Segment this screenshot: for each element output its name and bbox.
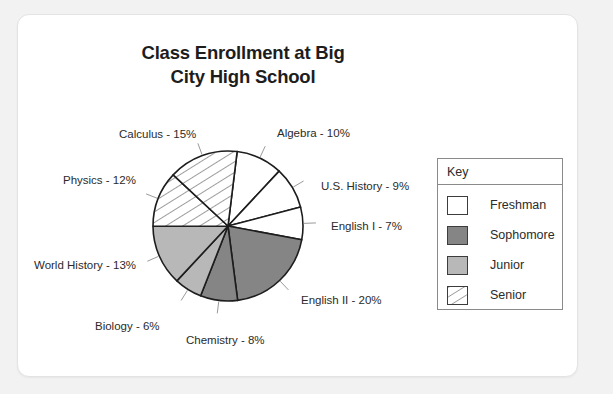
legend-item-label: Sophomore — [490, 228, 555, 242]
pie-slice[interactable] — [228, 226, 302, 300]
legend-item-label: Freshman — [490, 198, 546, 212]
slice-label: Algebra - 10% — [277, 127, 350, 140]
legend-swatch-icon — [447, 196, 468, 215]
legend-items: FreshmanSophomoreJuniorSenior — [438, 185, 562, 310]
leader-line — [260, 146, 265, 157]
pie-slice-group — [153, 151, 303, 301]
legend-swatch-icon — [447, 256, 468, 275]
legend-box: Key FreshmanSophomoreJuniorSenior — [437, 158, 563, 310]
slice-label: World History - 13% — [34, 259, 136, 272]
slice-label: Calculus - 15% — [119, 128, 196, 141]
leader-line — [198, 143, 202, 154]
legend-item-label: Junior — [490, 258, 524, 272]
slice-label: U.S. History - 9% — [321, 180, 409, 193]
legend-item[interactable]: Junior — [438, 250, 562, 280]
legend-item[interactable]: Senior — [438, 280, 562, 310]
legend-item[interactable]: Sophomore — [438, 220, 562, 250]
legend-title: Key — [438, 159, 562, 185]
leader-line — [146, 194, 157, 198]
slice-label: Chemistry - 8% — [186, 334, 265, 347]
legend-swatch-icon — [447, 286, 468, 305]
leader-line — [181, 290, 187, 300]
leader-line — [147, 256, 158, 261]
slice-label: English I - 7% — [331, 220, 402, 233]
leader-line — [280, 281, 288, 290]
legend-title-text: Key — [447, 165, 469, 179]
leader-line — [293, 181, 303, 187]
slice-label: Physics - 12% — [63, 174, 136, 187]
legend-item-label: Senior — [490, 288, 526, 302]
slice-label: English II - 20% — [301, 294, 382, 307]
leader-line — [217, 301, 218, 313]
legend-item[interactable]: Freshman — [438, 190, 562, 220]
slice-label: Biology - 6% — [95, 320, 160, 333]
legend-swatch-icon — [447, 226, 468, 245]
